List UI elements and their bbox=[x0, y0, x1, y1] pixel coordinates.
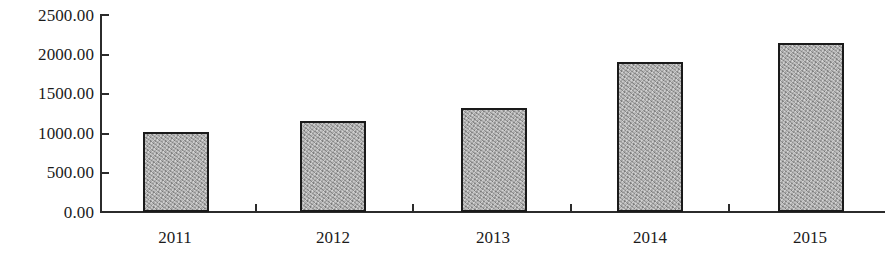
x-axis-label-2015: 2015 bbox=[750, 228, 870, 247]
bar-2013 bbox=[461, 108, 527, 212]
bar-2014 bbox=[617, 62, 683, 212]
x-axis-label-2014: 2014 bbox=[590, 228, 710, 247]
x-axis-label-2011: 2011 bbox=[115, 228, 235, 247]
y-axis-tick-label-1500: 1500.00 bbox=[0, 85, 94, 102]
y-axis-tick-label-500: 500.00 bbox=[0, 164, 94, 181]
bar-2015 bbox=[778, 43, 844, 212]
bar-2011 bbox=[143, 132, 209, 212]
x-axis-label-2013: 2013 bbox=[433, 228, 553, 247]
y-axis-tick-label-0: 0.00 bbox=[0, 204, 94, 221]
x-axis-label-2012: 2012 bbox=[273, 228, 393, 247]
y-axis-tick-label-1000: 1000.00 bbox=[0, 125, 94, 142]
plot-area bbox=[101, 15, 885, 212]
y-axis-tick-label-2500: 2500.00 bbox=[0, 7, 94, 24]
bar-2012 bbox=[300, 121, 366, 212]
y-axis-labels: 2500.00 2000.00 1500.00 1000.00 500.00 0… bbox=[0, 0, 94, 255]
bar-chart: 2500.00 2000.00 1500.00 1000.00 500.00 0… bbox=[0, 0, 885, 255]
y-axis-tick-label-2000: 2000.00 bbox=[0, 46, 94, 63]
